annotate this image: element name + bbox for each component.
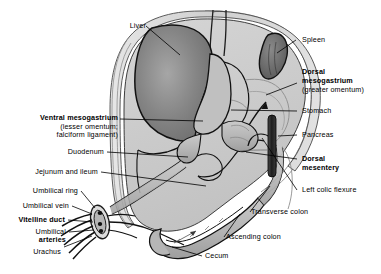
label-ventral-mesogastrium-sub2: falciform ligament) — [0, 131, 118, 139]
label-ascending-colon: Ascending colon — [226, 233, 281, 241]
label-umbilical-vein: Umbilical vein — [0, 202, 69, 210]
label-liver: Liver — [0, 22, 146, 30]
label-vitelline-duct: Vitelline duct — [0, 216, 65, 224]
label-dorsal-mesentery-line2: mesentery — [302, 164, 339, 172]
label-dorsal-mesogastrium-sub: (greater omentum) — [302, 86, 364, 94]
label-spleen: Spleen — [302, 36, 325, 44]
figure-canvas: Liver Ventral mesogastrium (lesser oment… — [0, 0, 381, 274]
label-umbilical-ring: Umbilical ring — [0, 187, 78, 195]
label-jejunum-and-ileum: Jejunum and ileum — [0, 168, 98, 176]
pancreas — [268, 115, 276, 177]
label-urachus: Urachus — [0, 248, 61, 256]
label-stomach: Stomach — [302, 107, 331, 115]
label-left-colic-flexure: Left colic flexure — [302, 186, 357, 194]
label-cecum: Cecum — [205, 252, 229, 260]
label-umbilical-arteries-line2: arteries — [0, 236, 66, 244]
label-duodenum: Duodenum — [0, 148, 104, 156]
label-pancreas: Pancreas — [302, 131, 334, 139]
label-transverse-colon: Transverse colon — [251, 208, 308, 216]
